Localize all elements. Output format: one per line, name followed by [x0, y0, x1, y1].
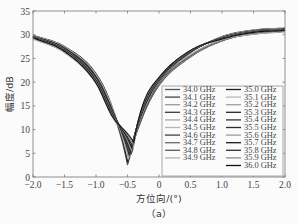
x-tick-label: −1.5: [56, 180, 73, 190]
y-tick-label: 20: [21, 78, 31, 88]
x-tick-label: −0.5: [119, 180, 136, 190]
x-tick-label: 1.5: [248, 180, 260, 190]
y-tick-label: 5: [25, 149, 30, 159]
y-tick-label: 35: [21, 7, 31, 17]
x-tick-label: 0.5: [185, 180, 197, 190]
y-tick-label: 10: [21, 125, 31, 135]
x-tick-label: 1.0: [216, 180, 228, 190]
x-tick-label: −1.0: [87, 180, 104, 190]
y-tick-label: 30: [21, 30, 31, 40]
x-tick-label: 0: [157, 180, 162, 190]
chart-figure: 05101520253035 −2.0−1.5−1.0−0.500.51.01.…: [0, 0, 297, 224]
y-tick-label: 15: [21, 101, 31, 111]
figure-caption: （a）: [146, 208, 172, 219]
y-axis-label: 幅度/dB: [4, 76, 15, 112]
x-tick-label: −2.0: [24, 180, 41, 190]
x-tick-label: 2.0: [279, 180, 291, 190]
legend: 34.0 GHz34.1 GHz34.2 GHz34.3 GHz34.4 GHz…: [162, 85, 283, 176]
x-axis-label: 方位向/(°): [136, 193, 181, 204]
y-tick-label: 25: [21, 54, 31, 64]
legend-entry: 34.9 GHz: [183, 153, 216, 162]
legend-entry: 36.0 GHz: [244, 161, 277, 170]
